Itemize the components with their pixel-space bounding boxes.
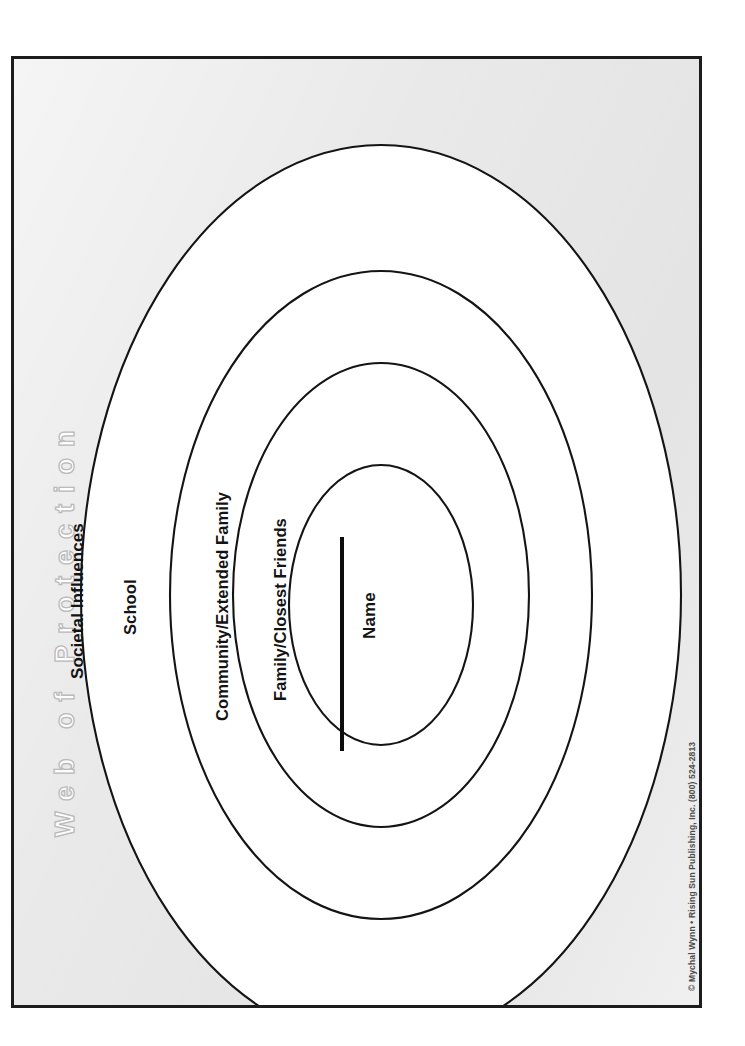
worksheet-page: Web of Protection Societal Influences Sc… [11, 56, 702, 1008]
ring-label-family-closest-friends: Family/Closest Friends [272, 518, 289, 701]
ring-inner [289, 465, 473, 745]
copyright-line: © Mychal Wynn • Rising Sun Publishing, I… [686, 742, 698, 991]
ring-label-school: School [122, 579, 139, 635]
footer-credit: © Mychal Wynn • Rising Sun Publishing, I… [686, 742, 702, 991]
web-of-protection-diagram [14, 59, 699, 1005]
ring-label-societal-influences: Societal Influences [69, 523, 86, 679]
name-write-on-line[interactable] [340, 537, 344, 751]
ring-label-community-extended-family: Community/Extended Family [214, 492, 231, 721]
website-line: www.rspublishing.com [698, 742, 702, 991]
name-field-label: Name [361, 592, 378, 639]
ellipse-rings-svg [14, 59, 699, 1005]
